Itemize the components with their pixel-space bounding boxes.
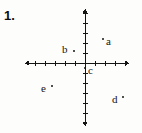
y-axis-arrow-up (82, 9, 87, 13)
y-axis-arrow-down (82, 122, 87, 126)
coordinate-plane-figure: 1. abcde (0, 0, 142, 133)
axes-svg (0, 0, 142, 133)
point-e-label: e (41, 83, 46, 94)
point-c-label: c (88, 65, 93, 76)
point-a-label: a (106, 36, 111, 47)
point-d-label: d (112, 94, 118, 105)
x-axis-arrow-left (25, 60, 29, 65)
x-axis-arrow-right (125, 60, 129, 65)
axes-group (25, 9, 129, 126)
point-b-label: b (62, 44, 68, 55)
